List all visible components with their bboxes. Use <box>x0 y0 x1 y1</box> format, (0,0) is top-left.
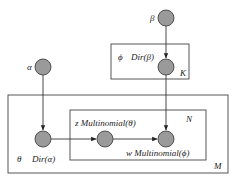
node-phi <box>158 59 174 75</box>
label-alpha: α <box>27 62 32 72</box>
node-w <box>158 131 174 147</box>
node-z <box>97 131 113 147</box>
label-phi-dist: Dir(β) <box>130 52 154 62</box>
label-theta: θ <box>17 154 22 164</box>
label-beta: β <box>149 13 155 23</box>
node-theta <box>35 131 51 147</box>
label-theta-dist: Dir(α) <box>31 154 55 164</box>
label-w-dist: w Multinomial(ϕ) <box>126 148 189 158</box>
label-plate-m: M <box>213 161 222 171</box>
node-alpha <box>35 59 51 75</box>
label-z-dist: z Multinomial(θ) <box>74 118 136 128</box>
label-plate-k: K <box>179 68 187 78</box>
label-plate-n: N <box>185 114 193 124</box>
lda-plate-diagram: β α ϕ Dir(β) K θ Dir(α) z Multinomial(θ)… <box>0 0 233 178</box>
node-beta <box>158 10 174 26</box>
label-phi: ϕ <box>118 52 123 62</box>
